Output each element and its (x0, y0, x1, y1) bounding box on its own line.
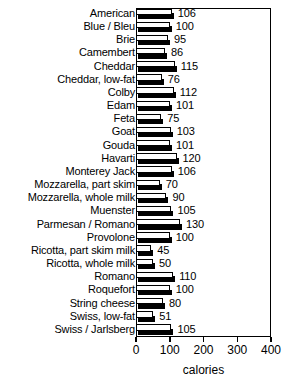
bar-row: Feta75 (0, 113, 294, 126)
bar-value-label: 51 (159, 310, 171, 323)
category-label: Monterey Jack (0, 165, 135, 178)
bar (136, 245, 155, 258)
bar-value-label: 120 (183, 152, 201, 165)
bar-row: Romano110 (0, 271, 294, 284)
bar-face (136, 22, 170, 28)
bar-value-label: 45 (157, 244, 169, 257)
bar-face (136, 180, 160, 186)
bar-value-label: 80 (169, 297, 181, 310)
category-label: Blue / Bleu (0, 20, 135, 33)
bar-value-label: 76 (168, 73, 180, 86)
bar-face (136, 114, 161, 120)
bar-value-label: 70 (166, 178, 178, 191)
bar-face (136, 9, 172, 15)
bar (136, 311, 157, 324)
bar-value-label: 103 (177, 125, 195, 138)
bar-face (136, 61, 175, 67)
category-label: American (0, 7, 135, 20)
bar-face (136, 101, 170, 107)
bar-face (136, 311, 153, 317)
bar (136, 74, 166, 87)
category-label: Romano (0, 270, 135, 283)
bar (136, 166, 176, 179)
bar (136, 34, 172, 47)
bar-value-label: 101 (176, 139, 194, 152)
bar-face (136, 127, 171, 133)
category-label: Havarti (0, 152, 135, 165)
x-axis-tick-label: 400 (251, 343, 291, 357)
category-label: Colby (0, 86, 135, 99)
bar-value-label: 86 (171, 46, 183, 59)
bar-value-label: 100 (176, 20, 194, 33)
bar-row: Cheddar115 (0, 61, 294, 74)
bar-face (136, 285, 170, 291)
bar-value-label: 101 (176, 99, 194, 112)
bar-face (136, 193, 166, 199)
bar-face (136, 206, 171, 212)
category-label: Brie (0, 33, 135, 46)
bar-face (136, 245, 151, 251)
bar-value-label: 105 (177, 323, 195, 336)
bar-face (136, 219, 180, 225)
bar-value-label: 106 (178, 165, 196, 178)
bar-value-label: 90 (172, 191, 184, 204)
bar (136, 219, 184, 232)
bar (136, 192, 170, 205)
bar-value-label: 115 (181, 60, 198, 73)
bar-value-label: 110 (179, 270, 196, 283)
bar (136, 140, 174, 153)
bar-face (136, 272, 173, 278)
bar-row: Swiss / Jarlsberg105 (0, 324, 294, 337)
bar (136, 126, 175, 139)
category-label: Ricotta, part skim milk (0, 244, 135, 257)
bar-value-label: 112 (180, 86, 197, 99)
category-label: Roquefort (0, 283, 135, 296)
x-axis-tick-labels: 0100200300400 (0, 343, 294, 359)
bar-value-label: 130 (186, 218, 204, 231)
category-label: Cheddar (0, 60, 135, 73)
category-label: Mozzarella, part skim (0, 178, 135, 191)
x-axis-tick (270, 337, 272, 342)
category-label: Muenster (0, 204, 135, 217)
category-label: Swiss, low-fat (0, 310, 135, 323)
bar-face (136, 232, 170, 238)
x-axis-tick (169, 337, 171, 342)
bar-face (136, 35, 168, 41)
bar-face (136, 166, 172, 172)
category-label: Cheddar, low-fat (0, 73, 135, 86)
bar-face (136, 48, 165, 54)
bar-value-label: 100 (176, 231, 194, 244)
bar-value-label: 105 (177, 204, 195, 217)
bar-face (136, 324, 171, 330)
bar-face (136, 140, 170, 146)
category-label: Edam (0, 99, 135, 112)
category-label: Ricotta, whole milk (0, 257, 135, 270)
bar (136, 87, 178, 100)
bar-face (136, 74, 162, 80)
bar-face (136, 153, 177, 159)
bar-face (136, 298, 163, 304)
bar (136, 61, 179, 74)
bar-face (136, 87, 174, 93)
bar-face (136, 259, 153, 265)
x-axis-tick (203, 337, 205, 342)
category-label: Mozzarella, whole milk (0, 191, 135, 204)
x-axis-tick (237, 337, 239, 342)
bar-value-label: 75 (167, 112, 179, 125)
bar (136, 8, 176, 21)
bar (136, 271, 177, 284)
category-label: Feta (0, 112, 135, 125)
x-axis-title: calories (136, 363, 271, 377)
bar (136, 153, 181, 166)
bar-row: Parmesan / Romano130 (0, 219, 294, 232)
category-label: Goat (0, 125, 135, 138)
bar-value-label: 100 (176, 283, 194, 296)
category-label: String cheese (0, 297, 135, 310)
category-label: Camembert (0, 46, 135, 59)
category-label: Gouda (0, 139, 135, 152)
bar (136, 113, 165, 126)
bar (136, 324, 175, 337)
bar (136, 205, 175, 218)
category-label: Parmesan / Romano (0, 218, 135, 231)
category-label: Swiss / Jarlsberg (0, 323, 135, 336)
